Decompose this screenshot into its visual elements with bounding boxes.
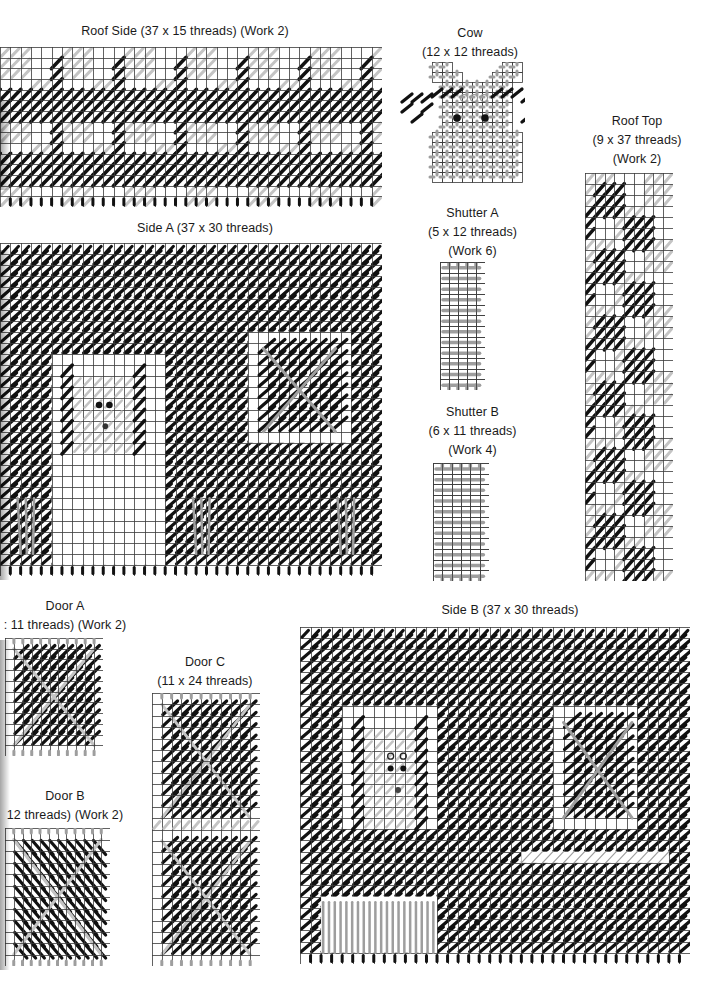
- stitch-grid-door-b: [5, 828, 110, 966]
- chart-title-line: (5 x 12 threads): [410, 223, 535, 242]
- chart-title-line: (9 x 37 threads): [575, 131, 699, 150]
- chart-title-line: Side A (37 x 30 threads): [80, 219, 330, 238]
- stitch-grid-door-c: [152, 693, 260, 966]
- chart-title-line: 12 threads) (Work 2): [0, 806, 130, 825]
- stitch-grid-shutter-b: [433, 463, 489, 581]
- chart-title-line: Door C: [150, 653, 260, 672]
- chart-title-line: Shutter B: [410, 403, 535, 422]
- stitch-grid-roof-top: [585, 173, 673, 581]
- stitch-grid-shutter-a: [440, 262, 485, 390]
- stitch-grid-door-a: [5, 638, 103, 756]
- stitch-grid-cow: [400, 62, 525, 192]
- chart-title-line: Roof Top: [575, 112, 699, 131]
- stitch-grid-side-a: [0, 243, 382, 576]
- chart-title-line: Shutter A: [410, 204, 535, 223]
- chart-title-line: : 11 threads) (Work 2): [0, 616, 130, 635]
- chart-title-line: Side B (37 x 30 threads): [400, 601, 620, 620]
- chart-title-line: (Work 2): [575, 150, 699, 169]
- chart-title-side-a: Side A (37 x 30 threads): [80, 219, 330, 238]
- chart-title-roof-side: Roof Side (37 x 15 threads) (Work 2): [20, 22, 350, 41]
- chart-title-door-a: Door A: 11 threads) (Work 2): [0, 597, 130, 635]
- chart-title-line: Door B: [0, 787, 130, 806]
- page-binding-shadow: [0, 640, 10, 970]
- chart-title-line: Door A: [0, 597, 130, 616]
- chart-title-line: (11 x 24 threads): [150, 672, 260, 691]
- chart-title-line: Roof Side (37 x 15 threads) (Work 2): [20, 22, 350, 41]
- page-binding-shadow: [0, 100, 10, 190]
- stitch-grid-roof-side: [0, 47, 382, 207]
- chart-title-cow: Cow(12 x 12 threads): [405, 24, 535, 62]
- page-binding-shadow: [0, 250, 10, 580]
- chart-title-shutter-b: Shutter B(6 x 11 threads)(Work 4): [410, 403, 535, 460]
- chart-title-shutter-a: Shutter A(5 x 12 threads)(Work 6): [410, 204, 535, 261]
- chart-title-door-c: Door C(11 x 24 threads): [150, 653, 260, 691]
- chart-title-roof-top: Roof Top(9 x 37 threads)(Work 2): [575, 112, 699, 169]
- chart-title-line: (12 x 12 threads): [405, 43, 535, 62]
- chart-title-line: (Work 6): [410, 242, 535, 261]
- chart-title-door-b: Door B12 threads) (Work 2): [0, 787, 130, 825]
- chart-title-line: (6 x 11 threads): [410, 422, 535, 441]
- stitch-grid-side-b: [300, 627, 690, 964]
- chart-title-side-b: Side B (37 x 30 threads): [400, 601, 620, 620]
- chart-title-line: Cow: [405, 24, 535, 43]
- chart-title-line: (Work 4): [410, 441, 535, 460]
